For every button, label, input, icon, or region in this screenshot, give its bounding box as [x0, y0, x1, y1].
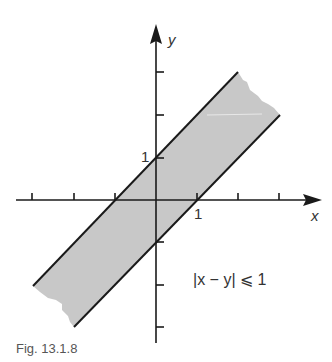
- figure-caption: Fig. 13.1.8: [16, 341, 77, 356]
- y-axis-label: y: [168, 32, 176, 47]
- inequality-annotation: |x − y| ⩽ 1: [193, 272, 266, 288]
- x-axis-label: x: [311, 208, 319, 223]
- x-tick-label-1: 1: [194, 206, 202, 221]
- y-axis-arrow-icon: [150, 24, 162, 44]
- y-tick-label-1: 1: [141, 149, 149, 164]
- plot-canvas: [0, 0, 332, 362]
